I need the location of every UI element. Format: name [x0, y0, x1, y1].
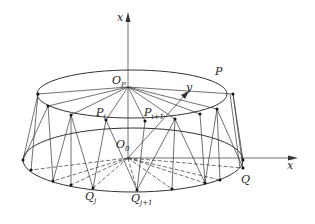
label-pi1: Pi+1 [143, 106, 164, 121]
label-qj1: Qj+1 [131, 192, 153, 207]
top-ellipse [37, 70, 227, 118]
label-qj: Qj [85, 190, 97, 205]
label-p: P [214, 65, 223, 78]
label-op: OP [112, 74, 126, 89]
label-pi: Pi [95, 106, 106, 121]
bottom-fan-lines [31, 158, 243, 190]
label-q: Q [241, 173, 250, 186]
label-y-axis: y [185, 81, 193, 94]
label-vertical-axis: x [117, 11, 124, 24]
bottom-ellipse [23, 128, 243, 192]
frustum-triangulation-diagram: x x y OP P Pi Pi+1 O0 Qj Qj+1 Q [0, 0, 315, 224]
y-axis [128, 94, 186, 158]
top-fan-lines [38, 87, 233, 121]
vertical-axis-arrow [126, 12, 131, 22]
label-horizontal-axis: x [287, 159, 294, 172]
